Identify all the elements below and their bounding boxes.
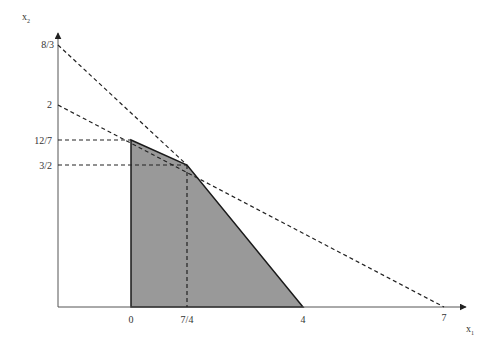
- y-axis-label: x2: [22, 11, 30, 24]
- y-tick-label: 8/3: [41, 39, 54, 50]
- x-tick-label: 4: [301, 314, 306, 325]
- x-tick-label: 7/4: [181, 314, 194, 325]
- lp-diagram: 8/3 2 12/7 3/2 0 7/4 4 7 x2 x1: [0, 0, 497, 347]
- x-tick-label: 7: [442, 312, 447, 323]
- y-tick-label: 3/2: [39, 160, 52, 171]
- constraint-line-8-3: [58, 45, 187, 165]
- y-tick-label: 12/7: [34, 135, 52, 146]
- y-tick-label: 2: [47, 99, 52, 110]
- x-axis-label: x1: [466, 323, 474, 336]
- x-tick-label: 0: [129, 314, 134, 325]
